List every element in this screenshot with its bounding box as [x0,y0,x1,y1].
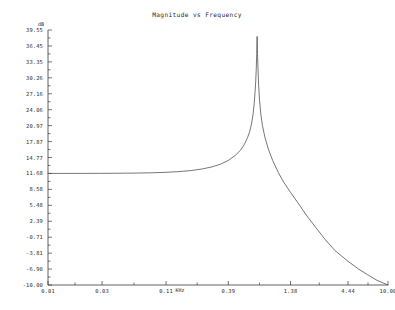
x-axis-unit-label: KHz [175,287,184,293]
y-tick-label: -3.81 [26,250,43,256]
plot-window: Magnitude vs Frequency dB KHz 39.5536.45… [0,0,395,310]
magnitude-curve [48,36,388,285]
y-tick-label: 30.26 [26,75,43,81]
y-tick-label: 11.68 [26,170,43,176]
chart-title: Magnitude vs Frequency [152,11,242,19]
y-axis-tick-labels: 39.5536.4533.3530.2627.1624.0620.9717.87… [23,27,43,288]
y-tick-label: -10.00 [23,282,43,288]
y-tick-label: 5.48 [29,202,43,208]
x-tick-label: 0.39 [222,288,236,294]
y-tick-label: -0.71 [26,234,43,240]
y-tick-label: 39.55 [26,27,43,33]
y-axis-ticks [48,30,52,285]
y-tick-label: 36.45 [26,43,43,49]
x-tick-label: 0.11 [159,288,173,294]
y-tick-label: 24.06 [26,107,43,113]
x-tick-label: 4.44 [341,288,355,294]
y-tick-label: -6.90 [26,266,43,272]
x-tick-label: 0.03 [95,288,109,294]
x-axis-tick-labels: 0.010.030.110.391.384.4410.00 [41,288,395,294]
y-tick-label: 27.16 [26,91,43,97]
magnitude-vs-frequency-chart: Magnitude vs Frequency dB KHz 39.5536.45… [0,0,395,310]
y-tick-label: 20.97 [26,123,43,129]
y-tick-label: 17.87 [26,139,43,145]
y-tick-label: 33.35 [26,59,43,65]
x-tick-label: 10.00 [380,288,395,294]
x-tick-label: 1.38 [284,288,298,294]
y-tick-label: 14.77 [26,155,43,161]
x-axis-ticks [48,281,388,285]
y-tick-label: 2.39 [29,218,43,224]
y-tick-label: 8.58 [29,186,43,192]
x-tick-label: 0.01 [41,288,55,294]
